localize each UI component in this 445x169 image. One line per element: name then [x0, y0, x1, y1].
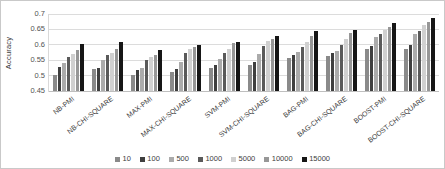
y-tick-label: 0.7	[17, 10, 45, 18]
bar	[314, 31, 318, 91]
bar	[62, 63, 66, 91]
bar	[71, 54, 75, 91]
bar	[349, 33, 353, 91]
bar	[388, 27, 392, 91]
legend-label: 5000	[239, 155, 256, 163]
bar	[67, 57, 71, 91]
y-axis-title-text: Accuracy	[4, 36, 13, 68]
bar-group	[209, 42, 240, 91]
bar	[227, 49, 231, 92]
bar	[383, 30, 387, 91]
bar	[374, 37, 378, 91]
bar	[236, 42, 240, 91]
bar	[370, 46, 374, 91]
bar	[131, 75, 135, 91]
bar-group	[131, 50, 162, 91]
bar	[115, 49, 119, 92]
bar	[193, 47, 197, 91]
bar	[422, 25, 426, 91]
gridline	[49, 14, 439, 15]
bar	[379, 34, 383, 91]
bar	[140, 68, 144, 91]
bar-group	[287, 31, 318, 91]
bar	[392, 23, 396, 91]
bar-group	[92, 42, 123, 91]
bar	[296, 52, 300, 91]
legend-swatch-icon	[169, 157, 174, 162]
bar-group	[170, 45, 201, 91]
bar	[427, 22, 431, 91]
bar	[214, 65, 218, 91]
bar	[271, 39, 275, 91]
bar	[92, 69, 96, 91]
y-axis-title: Accuracy	[1, 14, 15, 91]
bar-group	[365, 23, 396, 91]
bar	[275, 36, 279, 91]
bar	[101, 60, 105, 91]
bar	[301, 47, 305, 91]
bar	[262, 46, 266, 91]
bar	[266, 41, 270, 91]
bar	[97, 68, 101, 91]
bar	[154, 55, 158, 91]
bar	[257, 54, 261, 91]
bar	[418, 31, 422, 91]
bar-group	[404, 18, 435, 91]
bar	[136, 70, 140, 91]
bar	[76, 50, 80, 91]
accuracy-bar-chart: Accuracy 10100500100050001000015000 0.45…	[0, 0, 445, 169]
bar	[331, 53, 335, 91]
bar	[335, 51, 339, 91]
bar	[409, 45, 413, 91]
bar	[158, 50, 162, 91]
bar	[80, 44, 84, 91]
bar	[170, 72, 174, 91]
bar	[106, 55, 110, 91]
y-tick-label: 0.55	[17, 56, 45, 64]
y-tick-label: 0.65	[17, 25, 45, 33]
bar	[326, 56, 330, 91]
bar	[404, 49, 408, 92]
bar	[110, 53, 114, 91]
bar	[175, 69, 179, 91]
legend-label: 10	[123, 155, 131, 163]
bar	[232, 43, 236, 91]
bar	[292, 55, 296, 91]
bar	[413, 34, 417, 91]
bar	[353, 30, 357, 91]
bar	[365, 49, 369, 91]
bar	[53, 75, 57, 91]
bar	[253, 62, 257, 91]
y-tick-label: 0.6	[17, 41, 45, 49]
bar	[184, 53, 188, 91]
bar-group	[248, 36, 279, 91]
bar	[179, 62, 183, 91]
bar	[287, 58, 291, 91]
bar	[218, 59, 222, 91]
bar	[248, 65, 252, 91]
bar-group	[53, 44, 84, 91]
bar-group	[326, 30, 357, 91]
plot-area	[49, 14, 439, 91]
bar	[344, 39, 348, 91]
bar	[310, 36, 314, 91]
bar	[197, 45, 201, 91]
y-tick-label: 0.45	[17, 87, 45, 95]
bar	[223, 53, 227, 91]
bar	[145, 60, 149, 91]
bar	[340, 45, 344, 92]
bar	[431, 18, 435, 91]
bar	[58, 67, 62, 91]
bar	[149, 57, 153, 91]
bar	[188, 49, 192, 91]
bar	[119, 42, 123, 91]
bar	[209, 68, 213, 91]
bar	[305, 42, 309, 91]
y-tick-label: 0.5	[17, 72, 45, 80]
